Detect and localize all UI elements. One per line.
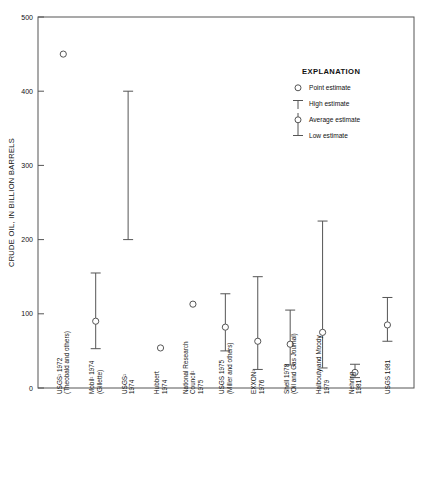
x-label-line: Shell 1978: [283, 363, 290, 394]
series-1: [60, 51, 66, 57]
y-tick-label-300: 300: [21, 162, 33, 169]
y-tick-label-400: 400: [21, 88, 33, 95]
legend-title: EXPLANATION: [302, 67, 360, 76]
x-label-line: Hubbert: [153, 371, 160, 394]
series-6: [220, 294, 230, 351]
x-label-line: 1976: [258, 379, 265, 394]
average-estimate-marker: [319, 329, 325, 335]
x-label-line: (Miller and others): [226, 343, 234, 395]
chart-svg: 0100200300400500CRUDE OIL, IN BILLION BA…: [0, 0, 427, 482]
series-5: [190, 301, 196, 307]
x-label-11: USGS 1981: [384, 359, 391, 394]
x-label-line: 1981: [355, 379, 362, 394]
x-label-line: USGS 1981: [384, 359, 391, 394]
x-label-8: Shell 1978(Oil and Gas Journal): [283, 333, 299, 394]
point-estimate-marker: [157, 345, 163, 351]
series-3: [123, 91, 133, 239]
x-label-6: USGS 1975(Miller and others): [218, 343, 234, 395]
x-label-line: (Gillette): [96, 370, 104, 394]
point-estimate-icon: [295, 85, 301, 91]
legend-entry-label: Low estimate: [309, 132, 348, 139]
legend-entry-label: High estimate: [309, 100, 350, 108]
series-4: [157, 345, 163, 351]
y-tick-label-500: 500: [21, 14, 33, 21]
crude-oil-estimates-chart: 0100200300400500CRUDE OIL, IN BILLION BA…: [0, 0, 427, 482]
average-estimate-marker: [93, 318, 99, 324]
x-label-line: 1974: [128, 379, 135, 394]
legend: EXPLANATIONPoint estimateHigh estimateAv…: [293, 67, 361, 139]
series-2: [91, 273, 101, 349]
x-label-line: Mobil¹ 1974: [88, 360, 95, 394]
point-estimate-marker: [190, 301, 196, 307]
legend-entry-label: Point estimate: [309, 84, 351, 91]
x-label-line: USGS 1975: [218, 359, 225, 394]
x-label-line: USGS¹ 1972: [56, 357, 63, 394]
average-estimate-marker: [255, 338, 261, 344]
average-estimate-icon: [295, 117, 301, 123]
y-axis: 0100200300400500: [21, 14, 44, 392]
x-label-line: 1979: [323, 379, 330, 394]
x-label-line: 1974: [161, 379, 168, 394]
x-label-line: EXXON¹: [250, 369, 257, 394]
x-label-line: Council¹: [189, 371, 196, 394]
x-label-2: Mobil¹ 1974(Gillette): [88, 360, 104, 394]
x-label-line: 1975: [197, 379, 204, 394]
average-estimate-marker: [222, 324, 228, 330]
x-label-line: (Theobald and others): [63, 331, 71, 394]
series-11: [382, 297, 392, 341]
series-7: [253, 277, 263, 370]
y-tick-label-200: 200: [21, 236, 33, 243]
x-label-line: USGS¹: [121, 374, 128, 394]
x-label-5: National ResearchCouncil¹1975: [182, 341, 204, 394]
point-estimate-marker: [60, 51, 66, 57]
y-axis-title: CRUDE OIL, IN BILLION BARRELS: [7, 138, 16, 267]
legend-entry-point-estimate: Point estimate: [295, 84, 351, 91]
x-label-7: EXXON¹1976: [250, 369, 265, 394]
x-label-line: (Oil and Gas Journal): [290, 333, 298, 394]
legend-entry-high-estimate: High estimate: [293, 100, 350, 109]
x-label-3: USGS¹1974: [121, 374, 136, 394]
y-tick-label-0: 0: [29, 385, 33, 392]
x-label-4: Hubbert1974: [153, 371, 168, 394]
x-label-1: USGS¹ 1972(Theobald and others): [56, 331, 72, 394]
average-estimate-marker: [384, 322, 390, 328]
legend-entry-label: Average estimate: [309, 116, 361, 124]
legend-entry-average-estimate: Average estimate: [295, 113, 361, 127]
legend-entry-low-estimate: Low estimate: [293, 127, 348, 139]
y-tick-label-100: 100: [21, 310, 33, 317]
x-label-line: National Research: [182, 341, 189, 394]
